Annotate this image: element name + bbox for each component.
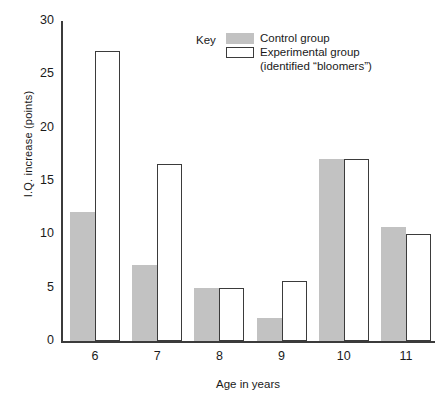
bar-experimental <box>344 159 369 341</box>
bar-control <box>381 227 406 341</box>
bar-experimental <box>219 288 244 341</box>
bar-experimental <box>95 51 120 341</box>
bar-control <box>194 288 219 341</box>
legend-label-experimental-line1: Experimental group <box>260 45 360 59</box>
x-tick-label: 10 <box>329 349 359 363</box>
y-tick-label: 20 <box>28 120 54 134</box>
legend-label-experimental-line2: (identified “bloomers”) <box>260 59 372 73</box>
x-tick-label: 8 <box>204 349 234 363</box>
legend-swatch-control <box>226 33 254 44</box>
bar-experimental <box>406 234 431 341</box>
bar-group <box>132 21 182 341</box>
y-tick-label: 10 <box>28 226 54 240</box>
y-tick-label: 25 <box>28 66 54 80</box>
bar-experimental <box>157 164 182 341</box>
legend-label-control: Control group <box>260 31 330 45</box>
bar-control <box>257 318 282 341</box>
x-tick-label: 6 <box>80 349 110 363</box>
y-tick-label: 5 <box>28 280 54 294</box>
x-tick-label: 7 <box>142 349 172 363</box>
bar-group <box>381 21 431 341</box>
y-tick-label: 15 <box>28 173 54 187</box>
bar-group <box>70 21 120 341</box>
bar-control <box>70 212 95 341</box>
x-axis-title: Age in years <box>61 378 435 390</box>
y-tick-label: 30 <box>28 13 54 27</box>
bar-chart: I.Q. increase (points) 051015202530 6789… <box>0 0 441 408</box>
bar-control <box>319 159 344 341</box>
x-tick-label: 9 <box>267 349 297 363</box>
x-axis-line <box>61 341 435 343</box>
y-axis-title: I.Q. increase (points) <box>22 54 34 234</box>
y-tick-label: 0 <box>28 333 54 347</box>
bar-control <box>132 265 157 341</box>
legend-swatch-experimental <box>226 47 254 58</box>
bar-experimental <box>282 281 307 341</box>
legend-key-label: Key <box>196 33 216 47</box>
bar-group <box>194 21 244 341</box>
plot-area <box>62 21 435 341</box>
x-tick-label: 11 <box>391 349 421 363</box>
